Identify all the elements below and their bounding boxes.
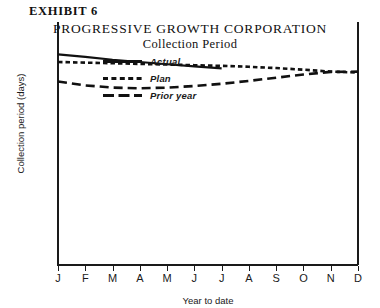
chart-legend: Actual Plan Prior year	[103, 55, 196, 106]
legend-label-actual: Actual	[150, 56, 180, 67]
x-tick-label-6: J	[212, 272, 232, 284]
legend-item-plan: Plan	[103, 72, 196, 85]
legend-item-actual: Actual	[103, 55, 196, 68]
x-tick-7	[249, 266, 250, 271]
legend-swatch-solid-icon	[103, 56, 142, 67]
x-tick-4	[167, 266, 168, 271]
x-tick-9	[303, 266, 304, 271]
exhibit-figure: EXHIBIT 6 PROGRESSIVE GROWTH CORPORATION…	[0, 0, 380, 308]
x-tick-5	[194, 266, 195, 271]
x-tick-10	[331, 266, 332, 271]
legend-swatch-dotted-icon	[103, 73, 142, 84]
x-tick-3	[140, 266, 141, 271]
x-axis-title: Year to date	[58, 295, 358, 306]
x-tick-11	[358, 266, 359, 271]
legend-label-plan: Plan	[150, 73, 171, 84]
legend-label-prior-year: Prior year	[150, 90, 196, 101]
y-axis-title: Collection period (days)	[15, 54, 26, 194]
x-tick-label-5: J	[184, 272, 204, 284]
x-tick-label-11: D	[348, 272, 368, 284]
legend-item-prior-year: Prior year	[103, 89, 196, 102]
x-tick-label-7: A	[239, 272, 259, 284]
x-tick-label-8: S	[266, 272, 286, 284]
x-tick-0	[58, 266, 59, 271]
x-tick-2	[113, 266, 114, 271]
x-tick-label-4: M	[157, 272, 177, 284]
x-tick-label-1: F	[75, 272, 95, 284]
x-tick-1	[85, 266, 86, 271]
x-tick-6	[222, 266, 223, 271]
x-tick-label-3: A	[130, 272, 150, 284]
x-tick-label-0: J	[48, 272, 68, 284]
exhibit-label: EXHIBIT 6	[29, 4, 98, 19]
x-tick-label-10: N	[321, 272, 341, 284]
legend-swatch-dashed-icon	[103, 90, 142, 101]
x-tick-8	[276, 266, 277, 271]
x-tick-label-2: M	[103, 272, 123, 284]
x-tick-label-9: O	[293, 272, 313, 284]
plot-area: JFMAMJJASOND Actual	[58, 22, 358, 265]
